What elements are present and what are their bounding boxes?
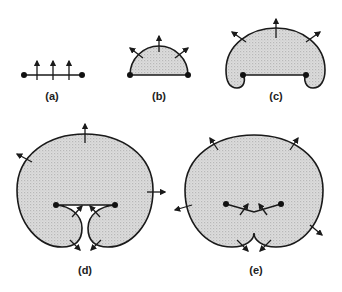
- panel-b: (b): [127, 36, 191, 102]
- endpoint-dot: [278, 201, 284, 207]
- endpoint-dot: [240, 72, 246, 78]
- panel-label: (d): [78, 264, 92, 276]
- endpoint-dot: [53, 202, 59, 208]
- panel-d: (d): [17, 124, 165, 276]
- panel-a: (a): [21, 61, 85, 102]
- front-propagation-figure: (a) (b) (c) (d): [0, 0, 342, 292]
- endpoint-dot: [79, 72, 85, 78]
- panel-c: (c): [226, 19, 325, 102]
- endpoint-dot: [185, 72, 191, 78]
- endpoint-dot: [223, 201, 229, 207]
- normal-arrow: [310, 225, 322, 235]
- endpoint-dot: [112, 202, 118, 208]
- endpoint-dot: [303, 72, 309, 78]
- panel-e: (e): [175, 135, 323, 276]
- shaded-region: [185, 135, 323, 247]
- panel-label: (c): [269, 90, 283, 102]
- shaded-region: [17, 134, 153, 247]
- panel-label: (e): [249, 264, 263, 276]
- endpoint-dot: [21, 72, 27, 78]
- panel-label: (a): [45, 90, 59, 102]
- endpoint-dot: [127, 72, 133, 78]
- panel-label: (b): [152, 90, 166, 102]
